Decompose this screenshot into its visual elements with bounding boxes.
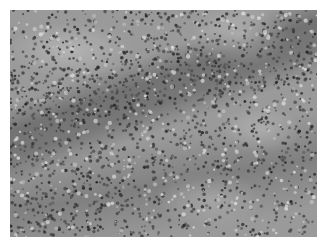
cell-nuclei-layer	[10, 10, 317, 237]
histology-micrograph	[10, 10, 317, 237]
